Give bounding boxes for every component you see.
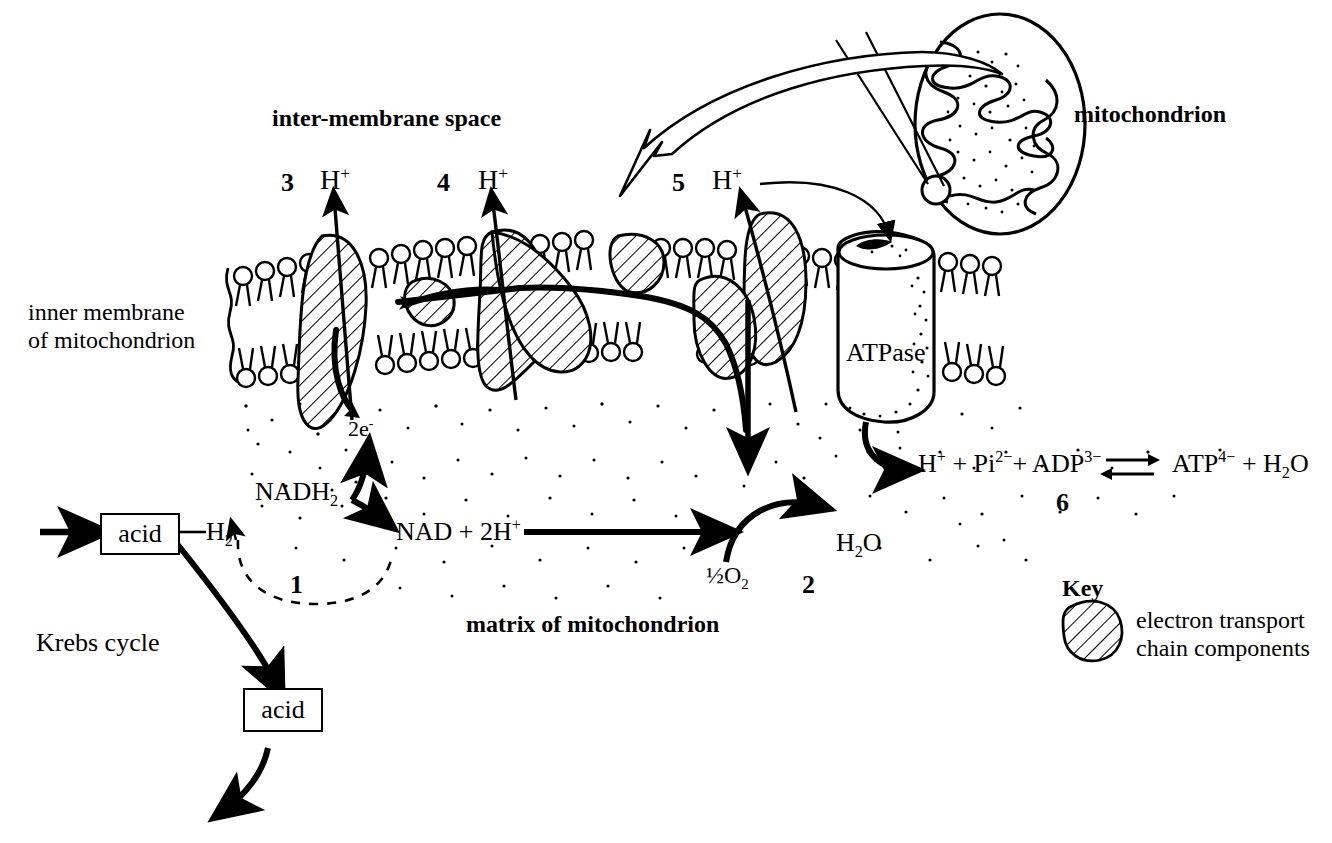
nad-2h-label: NAD + 2H+ — [396, 519, 521, 545]
acid-box-top: acid — [100, 513, 180, 555]
complex-1-blob — [298, 235, 366, 428]
inner-membrane-label-line1: inner membrane — [28, 298, 195, 326]
atp-synthesis-arrow — [865, 422, 908, 470]
mitochondrion-label: mitochondrion — [1074, 102, 1226, 126]
water-label: H2O — [836, 530, 882, 556]
h2-label: H2 — [206, 519, 233, 545]
two-electrons-label: 2e- — [348, 418, 373, 440]
inner-membrane-label: inner membrane of mitochondrion — [28, 298, 195, 355]
acid-box-bottom: acid — [243, 688, 323, 732]
key-title: Key — [1062, 576, 1103, 600]
key-description: electron transport chain components — [1136, 606, 1310, 663]
krebs-cycle-label: Krebs cycle — [36, 630, 159, 656]
lower-leaflet-past-atpase — [943, 342, 1005, 385]
equilibrium-arrow — [1100, 454, 1160, 480]
atpase-label: ATPase — [846, 340, 925, 366]
atp-equation-left: H+ + Pi2−+ ADP3− — [918, 451, 1101, 477]
half-oxygen-label: ½O2 — [706, 563, 749, 587]
step-number-6: 6 — [1056, 490, 1069, 516]
step-number-5: 5 — [672, 170, 685, 196]
upper-leaflet-past-atpase — [939, 253, 1001, 296]
proton-label-3: H+ — [320, 166, 350, 194]
lower-leaflet-left — [237, 344, 299, 387]
key-description-line1: electron transport — [1136, 606, 1310, 634]
mobile-carrier-2 — [610, 234, 664, 292]
key-swatch-icon — [1063, 601, 1122, 661]
inner-membrane-label-line2: of mitochondrion — [28, 326, 195, 354]
inter-membrane-space-label: inter-membrane space — [272, 106, 501, 130]
diagram-canvas: inter-membrane space inner membrane of m… — [0, 0, 1332, 843]
step-number-1: 1 — [290, 572, 303, 598]
key-description-line2: chain components — [1136, 634, 1310, 662]
step-number-2: 2 — [802, 572, 815, 598]
nadh2-label: NADH2 — [255, 479, 338, 505]
matrix-label: matrix of mitochondrion — [466, 612, 719, 636]
atpase-channel — [838, 232, 934, 422]
proton-label-5: H+ — [712, 166, 742, 194]
membrane-bracket — [226, 268, 238, 382]
proton-label-4: H+ — [478, 166, 508, 194]
step-number-4: 4 — [437, 170, 450, 196]
step-number-3: 3 — [281, 170, 294, 196]
mitochondrion-illustration — [836, 14, 1085, 234]
lower-leaflet-mid — [376, 328, 482, 374]
atp-equation-right: ATP4− + H2O — [1172, 451, 1309, 477]
